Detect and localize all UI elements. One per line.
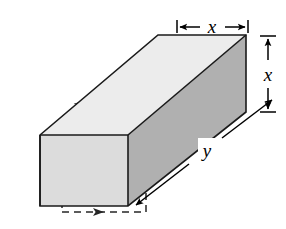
front-face bbox=[40, 135, 128, 206]
dimension-y-label: y bbox=[201, 140, 212, 161]
dimension-x-right-label: x bbox=[263, 64, 273, 85]
hidden-arrow-bottom-horizontal bbox=[93, 208, 104, 216]
figure-container: x x y bbox=[0, 0, 286, 229]
dimension-x-right: x bbox=[260, 36, 276, 112]
dimension-x-top-label: x bbox=[207, 16, 217, 37]
dimension-x-top: x bbox=[177, 16, 248, 37]
prism-body-group bbox=[40, 35, 246, 206]
geometry-figure-svg: x x y bbox=[0, 0, 286, 229]
